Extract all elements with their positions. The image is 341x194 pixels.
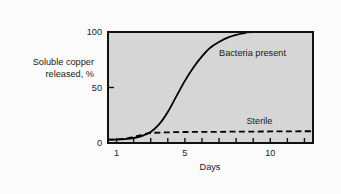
x-tick-label: 5 xyxy=(182,148,187,158)
series-annotation-sterile: Sterile xyxy=(246,116,272,126)
chart-figure: 050100 1510 Soluble copper released, % D… xyxy=(0,0,341,194)
y-axis-title-line-2: released, % xyxy=(45,69,94,79)
series-annotation-bacteria-present: Bacteria present xyxy=(219,48,286,58)
x-tick-label: 1 xyxy=(114,148,119,158)
y-axis-title-line-1: Soluble copper xyxy=(33,57,94,67)
y-tick-label: 0 xyxy=(97,138,102,148)
chart-canvas: 050100 1510 Soluble copper released, % D… xyxy=(0,0,341,194)
y-tick-label: 50 xyxy=(92,83,102,93)
y-tick-label: 100 xyxy=(87,27,102,37)
x-tick-label: 10 xyxy=(265,148,275,158)
x-axis-title: Days xyxy=(200,162,221,172)
